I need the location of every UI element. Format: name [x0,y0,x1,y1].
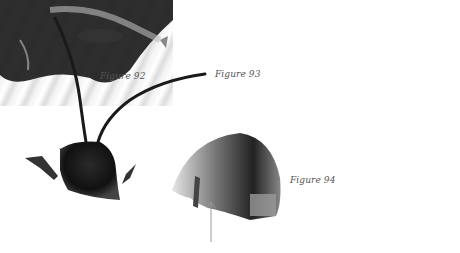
figure-92-caption: Figure 92 [100,71,146,81]
pointer-arrow-icon [205,200,217,242]
figure-94-caption: Figure 94 [290,175,336,185]
figure-93-caption: Figure 93 [215,69,261,79]
figure-94-image [160,128,290,223]
